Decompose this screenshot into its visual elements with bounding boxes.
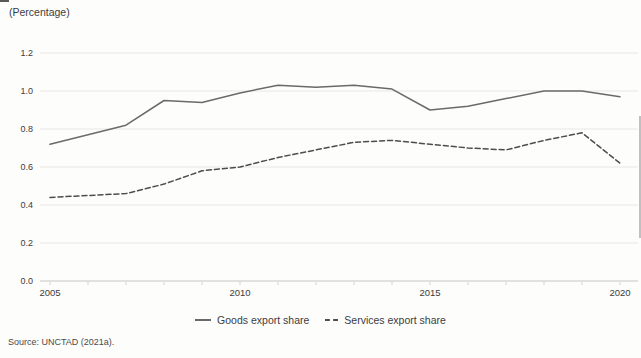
services-export-line <box>50 133 620 198</box>
x-tick-label: 2005 <box>39 287 60 298</box>
y-tick-label: 0.8 <box>20 124 33 134</box>
legend-label-services: Services export share <box>344 314 446 326</box>
x-tick-label: 2010 <box>229 287 250 298</box>
y-tick-label: 0.6 <box>20 162 33 172</box>
y-tick-label: 0.4 <box>20 200 33 210</box>
goods-export-line <box>50 85 620 144</box>
legend-item-goods: Goods export share <box>195 314 309 326</box>
x-tick-label: 2020 <box>609 287 630 298</box>
dashed-line-marker-icon <box>325 319 338 321</box>
line-chart-canvas: 0.00.20.40.60.81.01.22005201020152020 <box>0 0 641 358</box>
figure-container: (Percentage) 0.00.20.40.60.81.01.2200520… <box>0 0 641 358</box>
y-tick-label: 0.2 <box>20 238 33 248</box>
legend-label-goods: Goods export share <box>217 314 309 326</box>
y-tick-label: 0.0 <box>20 276 33 286</box>
chart-legend: Goods export share Services export share <box>0 314 641 326</box>
y-tick-label: 1.2 <box>20 48 33 58</box>
y-tick-label: 1.0 <box>20 86 33 96</box>
source-note: Source: UNCTAD (2021a). <box>8 337 114 347</box>
x-tick-label: 2015 <box>419 287 440 298</box>
legend-item-services: Services export share <box>325 314 446 326</box>
solid-line-marker-icon <box>195 319 211 321</box>
